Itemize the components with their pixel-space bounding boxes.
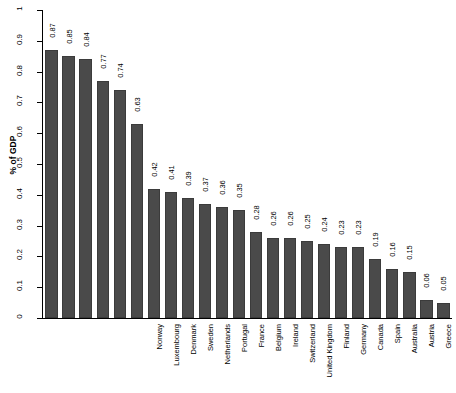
bar-value-label: 0.16 (388, 234, 397, 264)
x-axis-category-label: Sweden (206, 324, 215, 393)
bar[interactable] (199, 204, 211, 318)
x-axis-line (42, 318, 452, 319)
bar[interactable] (45, 50, 57, 318)
bar-group[interactable]: 0.77 (97, 10, 109, 318)
bar[interactable] (148, 189, 160, 318)
bar-value-label: 0.85 (64, 22, 73, 52)
bar-value-label: 0.87 (47, 16, 56, 46)
x-axis-category-label: Austria (427, 324, 436, 393)
bar-group[interactable]: 0.25 (301, 10, 313, 318)
y-axis-tick (37, 256, 42, 257)
x-axis-category-label: Greece (444, 324, 453, 393)
bar-value-label: 0.15 (405, 237, 414, 267)
bar[interactable] (352, 247, 364, 318)
bar-group[interactable]: 0.42 (148, 10, 160, 318)
bar-value-label: 0.37 (200, 170, 209, 200)
bar-group[interactable]: 0.41 (165, 10, 177, 318)
plot-area: 0.870.850.840.770.740.630.420.410.390.37… (43, 10, 452, 318)
bar[interactable] (182, 198, 194, 318)
bar-value-label: 0.74 (115, 56, 124, 86)
x-axis-category-label: Spain (393, 324, 402, 393)
bar-group[interactable]: 0.06 (420, 10, 432, 318)
bar-group[interactable]: 0.35 (233, 10, 245, 318)
bar[interactable] (284, 238, 296, 318)
y-axis-tick (37, 287, 42, 288)
bar-value-label: 0.35 (234, 176, 243, 206)
bar-group[interactable]: 0.19 (369, 10, 381, 318)
bar-value-label: 0.24 (320, 210, 329, 240)
bar[interactable] (62, 56, 74, 318)
bar-value-label: 0.77 (98, 46, 107, 76)
y-axis-tick (37, 164, 42, 165)
bar-group[interactable]: 0.87 (45, 10, 57, 318)
bar-group[interactable]: 0.63 (131, 10, 143, 318)
bar[interactable] (165, 192, 177, 318)
bar-value-label: 0.26 (286, 203, 295, 233)
y-axis-tick-label: 0.5 (15, 152, 24, 174)
bar[interactable] (335, 247, 347, 318)
y-axis-tick (37, 102, 42, 103)
bar-group[interactable]: 0.85 (62, 10, 74, 318)
bar[interactable] (267, 238, 279, 318)
x-axis-category-label: Denmark (189, 324, 198, 393)
bar-value-label: 0.26 (269, 203, 278, 233)
bar[interactable] (318, 244, 330, 318)
bar-value-label: 0.23 (337, 213, 346, 243)
x-axis-category-label: France (257, 324, 266, 393)
bar-group[interactable]: 0.05 (437, 10, 449, 318)
bar-group[interactable]: 0.16 (386, 10, 398, 318)
x-axis-category-label: Portugal (240, 324, 249, 393)
bar[interactable] (403, 272, 415, 318)
bar-value-label: 0.05 (439, 268, 448, 298)
x-axis-category-label: Netherlands (223, 324, 232, 393)
bar-group[interactable]: 0.36 (216, 10, 228, 318)
bar[interactable] (79, 59, 91, 318)
bar[interactable] (437, 303, 449, 318)
bar-value-label: 0.28 (252, 197, 261, 227)
bar-group[interactable]: 0.74 (114, 10, 126, 318)
bar-value-label: 0.25 (303, 207, 312, 237)
y-axis-tick-label: 0.3 (15, 213, 24, 235)
bar[interactable] (386, 269, 398, 318)
y-axis-tick (37, 72, 42, 73)
bar[interactable] (114, 90, 126, 318)
y-axis-tick-label: 0.6 (15, 121, 24, 143)
x-axis-category-label: Finland (342, 324, 351, 393)
bar-group[interactable]: 0.26 (267, 10, 279, 318)
bar[interactable] (233, 210, 245, 318)
bar[interactable] (420, 300, 432, 318)
bar-group[interactable]: 0.26 (284, 10, 296, 318)
bar[interactable] (97, 81, 109, 318)
bar-value-label: 0.06 (422, 265, 431, 295)
bar[interactable] (369, 259, 381, 318)
bar-value-label: 0.84 (81, 25, 90, 55)
bar-group[interactable]: 0.23 (352, 10, 364, 318)
y-axis-tick (37, 41, 42, 42)
y-axis-tick-label: 0.7 (15, 90, 24, 112)
bar-group[interactable]: 0.15 (403, 10, 415, 318)
y-axis-tick-label: 0.2 (15, 244, 24, 266)
y-axis-tick (37, 10, 42, 11)
x-axis-category-label: Germany (359, 324, 368, 393)
bar-group[interactable]: 0.28 (250, 10, 262, 318)
bar-group[interactable]: 0.24 (318, 10, 330, 318)
bar[interactable] (301, 241, 313, 318)
x-axis-category-label: United Kingdom (325, 324, 334, 393)
bar-group[interactable]: 0.84 (79, 10, 91, 318)
bar[interactable] (250, 232, 262, 318)
bar-group[interactable]: 0.39 (182, 10, 194, 318)
bar-value-label: 0.19 (371, 225, 380, 255)
bar-group[interactable]: 0.37 (199, 10, 211, 318)
x-axis-category-label: Ireland (291, 324, 300, 393)
bar[interactable] (131, 124, 143, 318)
bar[interactable] (216, 207, 228, 318)
y-axis-tick-label: 1 (15, 0, 24, 20)
x-axis-category-label: Norway (155, 324, 164, 393)
bar-value-label: 0.41 (166, 157, 175, 187)
bar-group[interactable]: 0.23 (335, 10, 347, 318)
y-axis-tick (37, 195, 42, 196)
y-axis-tick (37, 133, 42, 134)
bar-value-label: 0.42 (149, 154, 158, 184)
y-axis-tick-label: 0.9 (15, 28, 24, 50)
y-axis-tick-label: 0.8 (15, 59, 24, 81)
